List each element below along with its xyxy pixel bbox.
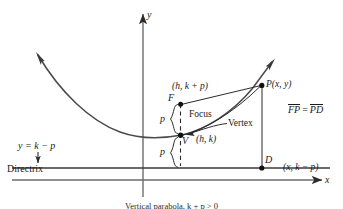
directrix-text-label: Directrix <box>7 164 43 174</box>
focus-coordinate-label: (h, k + p) <box>172 82 208 92</box>
brace-lower-p <box>171 138 178 168</box>
y-axis-label: y <box>147 10 151 20</box>
focus-point-dot <box>178 102 183 107</box>
brace-upper-p-label: p <box>160 114 165 124</box>
directrix-equation-label: y = k − p <box>18 141 55 151</box>
point-d-dot <box>259 165 264 170</box>
vertex-point-label: V <box>182 136 188 146</box>
vertex-text-label: Vertex <box>228 119 253 129</box>
equation-lhs: FP <box>288 104 300 115</box>
vertex-coordinate-label: (h, k) <box>196 135 216 145</box>
equation-operator: = <box>300 104 310 115</box>
brace-lower-p-label: p <box>160 147 165 157</box>
figure-caption: Vertical parabola, k + p > 0 <box>0 201 343 209</box>
point-p-label: P(x, y) <box>266 80 291 90</box>
x-axis-label: x <box>325 175 329 185</box>
point-p-dot <box>259 83 264 88</box>
equation-rhs: PD <box>310 104 323 115</box>
brace-upper-p <box>171 105 178 134</box>
point-d-coordinate-label: (x, k − p) <box>283 163 318 173</box>
figure-canvas: y x (h, k + p) F Focus V (h, k) Vertex p… <box>0 0 343 209</box>
focus-text-label: Focus <box>189 110 212 120</box>
focus-point-label: F <box>168 93 174 103</box>
distance-equality-equation: FP=PD <box>288 104 323 115</box>
point-d-label: D <box>265 155 272 165</box>
